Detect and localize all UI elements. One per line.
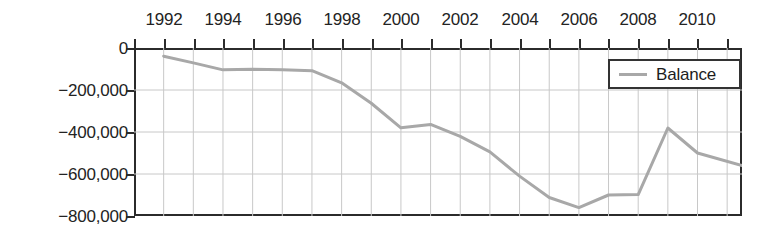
chart-container: 0 −200,000 −400,000 −600,000 −800,000 19…	[0, 0, 763, 245]
y-tick-label-1: −200,000	[58, 82, 128, 99]
x-tick-mark	[638, 39, 640, 48]
x-tick-label-1994: 1994	[198, 11, 248, 29]
x-tick-mark	[372, 39, 374, 48]
x-tick-mark	[579, 39, 581, 48]
x-tick-label-2006: 2006	[554, 11, 604, 29]
x-tick-label-2004: 2004	[495, 11, 545, 29]
x-tick-mark	[164, 39, 166, 48]
chart-legend[interactable]: Balance	[608, 59, 741, 89]
y-tick-label-3: −600,000	[58, 166, 128, 183]
x-tick-mark	[401, 39, 403, 48]
x-tick-mark	[253, 39, 255, 48]
x-tick-mark	[223, 39, 225, 48]
x-tick-mark	[490, 39, 492, 48]
x-tick-label-2008: 2008	[613, 11, 663, 29]
x-tick-mark	[283, 39, 285, 48]
x-tick-label-1992: 1992	[139, 11, 189, 29]
x-tick-label-2002: 2002	[435, 11, 485, 29]
x-tick-mark	[668, 39, 670, 48]
x-tick-mark	[460, 39, 462, 48]
x-tick-mark	[312, 39, 314, 48]
x-tick-mark	[431, 39, 433, 48]
x-tick-mark	[134, 39, 136, 48]
x-tick-mark	[342, 39, 344, 48]
y-tick-mark	[126, 216, 135, 218]
y-tick-label-4: −800,000	[58, 208, 128, 225]
x-tick-label-2010: 2010	[672, 11, 722, 29]
x-tick-mark	[727, 39, 729, 48]
x-tick-mark	[520, 39, 522, 48]
x-tick-label-2000: 2000	[376, 11, 426, 29]
x-tick-mark	[549, 39, 551, 48]
legend-line-swatch	[619, 73, 647, 76]
x-tick-mark	[697, 39, 699, 48]
x-tick-mark	[194, 39, 196, 48]
x-tick-label-1996: 1996	[258, 11, 308, 29]
x-tick-label-1998: 1998	[317, 11, 367, 29]
y-tick-label-2: −400,000	[58, 124, 128, 141]
x-tick-mark	[608, 39, 610, 48]
legend-label-balance: Balance	[656, 66, 716, 83]
